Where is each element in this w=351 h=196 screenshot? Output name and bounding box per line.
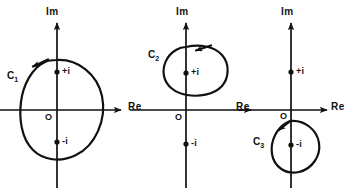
- complex-plane-contour-figure: Im Re O +i -i C1 Im Re O +i -i C2 Im Re …: [0, 0, 351, 196]
- figure-canvas: [0, 0, 351, 196]
- panel-3-contour-label-subscript: 3: [260, 142, 264, 149]
- panel-2-contour-label-subscript: 2: [155, 55, 159, 62]
- panel-1-point-plus-i: [54, 69, 59, 74]
- panel-2-plus-i-label: +i: [191, 68, 199, 77]
- panel-3-point-minus-i: [288, 142, 293, 147]
- panel-3-direction-arrow: [279, 121, 291, 131]
- panel-3-graphics: [238, 23, 327, 188]
- panel-1-contour-label: C1: [7, 71, 18, 83]
- panel-2-imaginary-axis-label: Im: [176, 7, 189, 17]
- panel-1-imaginary-axis-label: Im: [46, 7, 59, 17]
- panel-1-graphics: [0, 23, 121, 188]
- panel-1-origin-label: O: [45, 113, 52, 122]
- panel-3-minus-i-label: -i: [296, 140, 302, 149]
- panel-2-point-plus-i: [183, 70, 188, 75]
- panel-3-real-axis-label: Re: [331, 102, 345, 112]
- panel-2-minus-i-label: -i: [191, 139, 197, 148]
- panel-2-origin-label: O: [175, 113, 182, 122]
- panel-2-real-axis-label: Re: [236, 102, 250, 112]
- panel-3-contour-label: C3: [253, 137, 264, 149]
- panel-1-plus-i-label: +i: [62, 67, 70, 76]
- panel-2-contour-label: C2: [148, 50, 159, 62]
- panel-1-contour-label-subscript: 1: [14, 76, 18, 83]
- panel-3-point-plus-i: [288, 69, 293, 74]
- panel-3-origin-label: O: [280, 112, 287, 121]
- panel-1-point-minus-i: [54, 139, 59, 144]
- panel-2-graphics: [130, 23, 251, 188]
- panel-3-plus-i-label: +i: [296, 67, 304, 76]
- panel-2-point-minus-i: [183, 141, 188, 146]
- panel-3-imaginary-axis-label: Im: [281, 7, 294, 17]
- panel-1-real-axis-label: Re: [128, 102, 142, 112]
- panel-1-minus-i-label: -i: [62, 137, 68, 146]
